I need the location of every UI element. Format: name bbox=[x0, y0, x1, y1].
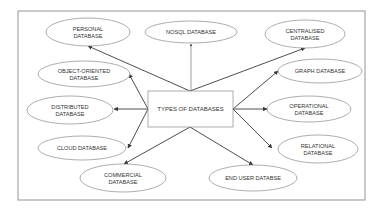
node-personal: PERSONALDATABASE bbox=[46, 18, 130, 46]
node-graph: GRAPH DATABASE bbox=[278, 59, 362, 83]
node-nosql: NOSQL DATABASE bbox=[145, 21, 237, 43]
node-label-distributed: DATABASE bbox=[55, 111, 84, 117]
node-label-centralised: DATABASE bbox=[290, 35, 319, 41]
node-label-personal: PERSONAL bbox=[73, 26, 103, 32]
node-centralised: CENTRALISEDDATABASE bbox=[265, 20, 345, 48]
node-label-nosql: NOSQL DATABASE bbox=[166, 29, 216, 35]
node-object-oriented: OBJECT-ORIENTEDDATABASE bbox=[38, 61, 130, 87]
center-node: TYPES OF DATABASES bbox=[148, 91, 233, 127]
center-label: TYPES OF DATABASES bbox=[157, 106, 223, 112]
node-cloud: CLOUD DATABASE bbox=[38, 136, 126, 160]
node-label-object-oriented: OBJECT-ORIENTED bbox=[58, 68, 111, 74]
node-label-commercial: COMMERCIAL bbox=[104, 172, 142, 178]
node-end-user: END USER DATABSE bbox=[209, 165, 297, 191]
node-label-operational: OPERATIONAL bbox=[289, 103, 328, 109]
node-commercial: COMMERCIALDATABASE bbox=[80, 164, 166, 192]
node-label-end-user: END USER DATABSE bbox=[225, 175, 281, 181]
node-label-operational: DATABASE bbox=[294, 110, 323, 116]
node-label-graph: GRAPH DATABASE bbox=[295, 68, 346, 74]
node-distributed: DISTRIBUTEDDATABASE bbox=[27, 96, 113, 124]
node-operational: OPERATIONALDATABASE bbox=[267, 96, 351, 122]
node-label-personal: DATABASE bbox=[73, 33, 102, 39]
node-label-relational: DATABASE bbox=[303, 150, 332, 156]
node-label-cloud: CLOUD DATABASE bbox=[57, 145, 107, 151]
node-label-distributed: DISTRIBUTED bbox=[51, 104, 88, 110]
types-of-databases-diagram: PERSONALDATABASENOSQL DATABASECENTRALISE… bbox=[0, 0, 383, 210]
node-label-relational: RELATIONAL bbox=[301, 143, 335, 149]
node-relational: RELATIONALDATABASE bbox=[278, 135, 358, 163]
node-label-commercial: DATABASE bbox=[108, 179, 137, 185]
node-label-centralised: CENTRALISED bbox=[285, 28, 324, 34]
node-label-object-oriented: DATABASE bbox=[69, 75, 98, 81]
